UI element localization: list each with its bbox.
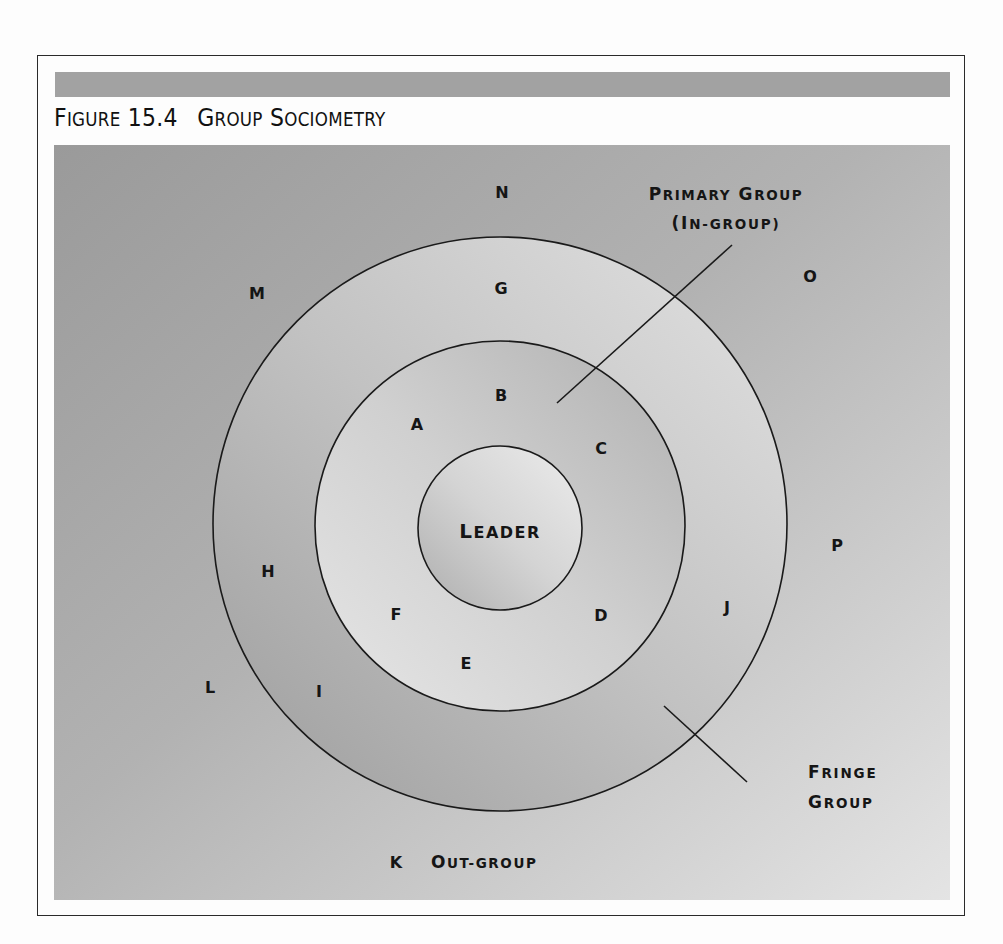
member-b: B — [495, 386, 507, 405]
sociometry-diagram: LEADER PRIMARY GROUP (IN-GROUP) FRINGE G… — [54, 145, 950, 900]
member-h: H — [261, 562, 274, 581]
member-n: N — [495, 183, 508, 202]
figure-header-bar — [55, 72, 950, 97]
member-m: M — [249, 284, 265, 303]
member-p: P — [831, 536, 843, 555]
figure-title-rest-2: OCIOMETRY — [284, 108, 385, 130]
figure-number-initial: F — [54, 103, 67, 132]
member-i: I — [316, 682, 322, 701]
member-a: A — [411, 415, 424, 434]
out-group-label: OUT-GROUP — [431, 852, 537, 872]
figure-title-rest-1: ROUP — [215, 108, 263, 130]
figure-title-initial-2: S — [263, 103, 284, 132]
member-e: E — [461, 654, 472, 673]
fringe-group-label-line2: GROUP — [808, 792, 874, 812]
member-l: L — [205, 678, 215, 697]
member-c: C — [595, 439, 607, 458]
figure-title: FIGURE 15.4GROUP SOCIOMETRY — [54, 104, 385, 133]
member-d: D — [594, 606, 607, 625]
member-g: G — [494, 279, 507, 298]
figure-number-value: 15.4 — [121, 103, 178, 132]
member-k: K — [390, 853, 403, 872]
primary-group-label: PRIMARY GROUP — [649, 184, 804, 204]
in-group-label: (IN-GROUP) — [672, 213, 781, 233]
member-o: O — [803, 267, 817, 286]
member-j: J — [723, 598, 730, 617]
figure-title-initial-1: G — [197, 103, 214, 132]
leader-label: LEADER — [459, 519, 541, 543]
figure-number-rest: IGURE — [67, 108, 121, 130]
member-f: F — [391, 605, 402, 624]
fringe-group-label: FRINGE — [808, 762, 877, 782]
